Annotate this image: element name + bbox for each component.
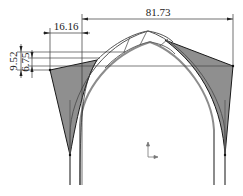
vertex-left-bottom [69,154,71,156]
dim-952-arrow-top [20,46,23,52]
dim-81-arrow-right [227,18,233,21]
dim-offset-width-label: 16.16 [54,20,79,32]
vertex-left [49,69,51,71]
band-hatch-3 [160,39,168,46]
dim-81-arrow-left [82,18,88,21]
dim-16-arrow-left [44,32,50,35]
technical-drawing: 81.73 16.16 9.52 6.75 [0,0,243,196]
dim-height-outer-label: 9.52 [7,51,19,70]
vertex-right-bottom [224,154,226,156]
dim-height-inner-label: 6.75 [19,52,31,72]
vertex-right [232,65,234,67]
dim-16-arrow-right [82,32,88,35]
coordinate-axis-icon [147,142,159,159]
dim-overall-width-label: 81.73 [146,6,171,18]
